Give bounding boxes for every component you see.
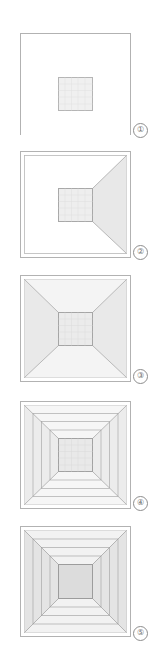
step-badge-3: ③ — [133, 369, 148, 384]
panel-4-drawing — [0, 388, 153, 516]
panel-step-3: ③ — [0, 263, 153, 388]
panel-2-drawing — [0, 138, 153, 263]
perspective-steps-sheet: ① ② — [0, 0, 153, 653]
step-badge-1: ① — [133, 123, 148, 138]
panel-step-5: 車起こしの 時代にする ⑤ — [0, 516, 153, 653]
panel-1-drawing — [0, 10, 153, 135]
panel-step-2: ② — [0, 138, 153, 263]
step-badge-2: ② — [133, 245, 148, 260]
center-text-square — [59, 565, 93, 599]
step-badge-4: ④ — [133, 496, 148, 511]
center-grid-square — [59, 78, 93, 111]
panel-step-4: 車起こしの 時代にする ④ — [0, 388, 153, 513]
panel-3-drawing — [0, 263, 153, 388]
center-grid-square — [59, 313, 93, 346]
panel-step-1: ① — [0, 10, 153, 135]
center-grid-square — [59, 189, 93, 222]
panel-5-drawing — [0, 516, 153, 653]
step-badge-5: ⑤ — [133, 626, 148, 641]
center-grid-square — [59, 439, 93, 472]
